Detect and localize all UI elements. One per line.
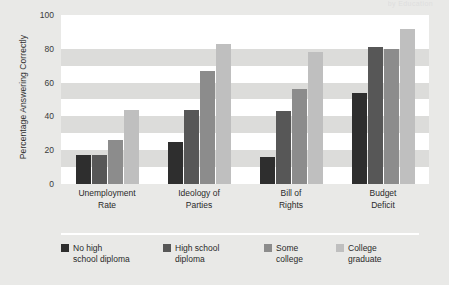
legend-divider: [61, 233, 419, 235]
bar: [384, 49, 399, 184]
bar: [292, 89, 307, 184]
bar-set: [352, 15, 415, 184]
x-axis-label: Ideology ofParties: [153, 188, 245, 222]
bar-group: [153, 15, 245, 184]
bar: [260, 157, 275, 184]
bar: [168, 142, 183, 184]
x-axis-label: BudgetDeficit: [337, 188, 429, 222]
chart-legend: No high school diploma High school diplo…: [61, 243, 421, 273]
bar-set: [260, 15, 323, 184]
y-tick-label: 60: [28, 79, 54, 88]
bar-group: [337, 15, 429, 184]
legend-swatch-icon: [61, 244, 69, 252]
bar: [216, 44, 231, 184]
plot-area: [61, 15, 429, 184]
legend-label: College graduate: [348, 243, 382, 265]
bar: [276, 111, 291, 184]
legend-swatch-icon: [336, 244, 344, 252]
x-axis-labels: UnemploymentRateIdeology ofPartiesBill o…: [61, 188, 429, 222]
bar: [368, 47, 383, 184]
bar: [184, 110, 199, 184]
legend-item[interactable]: Some college: [264, 243, 336, 273]
y-tick-label: 20: [28, 146, 54, 155]
legend-swatch-icon: [163, 244, 171, 252]
legend-label: Some college: [276, 243, 303, 265]
legend-item[interactable]: College graduate: [336, 243, 416, 273]
y-tick-label: 40: [28, 112, 54, 121]
y-tick-label: 100: [28, 11, 54, 20]
bar: [200, 71, 215, 184]
bar-group: [245, 15, 337, 184]
legend-item[interactable]: High school diploma: [163, 243, 264, 273]
chart-figure: by Education Percentage Answering Correc…: [0, 0, 449, 285]
legend-item[interactable]: No high school diploma: [61, 243, 163, 273]
y-axis-ticks: 100 80 60 40 20 0: [26, 0, 54, 285]
legend-label: High school diploma: [175, 243, 219, 265]
bar: [108, 140, 123, 184]
bar-set: [168, 15, 231, 184]
legend-swatch-icon: [264, 244, 272, 252]
bar: [124, 110, 139, 184]
bar-set: [76, 15, 139, 184]
bar: [76, 155, 91, 184]
y-tick-label: 80: [28, 45, 54, 54]
x-axis-label: UnemploymentRate: [61, 188, 153, 222]
bar: [308, 52, 323, 184]
bar: [400, 29, 415, 184]
legend-label: No high school diploma: [73, 243, 130, 265]
bar-groups: [61, 15, 429, 184]
x-axis-label: Bill ofRights: [245, 188, 337, 222]
bar: [92, 155, 107, 184]
bar: [352, 93, 367, 184]
y-tick-label: 0: [28, 180, 54, 189]
bar-group: [61, 15, 153, 184]
chart-title-fragment: by Education: [388, 0, 433, 9]
